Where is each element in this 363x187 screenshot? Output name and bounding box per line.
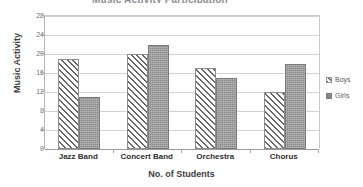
chart-legend: BoysGirls [326, 74, 363, 106]
bar-group [127, 16, 169, 149]
category-label: Jazz Band [44, 152, 113, 161]
legend-item-boys[interactable]: Boys [326, 74, 363, 85]
legend-label: Girls [335, 92, 349, 100]
y-tick-mark [41, 53, 44, 54]
y-tick-label: 12 [0, 88, 44, 95]
bar-girls [285, 64, 306, 150]
x-tick-mark [318, 149, 319, 153]
y-tick-label: 28 [0, 12, 44, 19]
category-label: Orchestra [181, 152, 250, 161]
y-tick-label: 0 [0, 145, 44, 152]
bar-group [58, 16, 100, 149]
bar-boys [264, 92, 285, 149]
category-label: Concert Band [113, 152, 182, 161]
bar-girls [216, 78, 237, 149]
y-tick-label: 24 [0, 31, 44, 38]
y-tick-label: 4 [0, 126, 44, 133]
bar-boys [127, 54, 148, 149]
bar-chart: Music Activity Participation Music Activ… [0, 0, 363, 187]
y-tick-mark [41, 148, 44, 149]
y-tick-mark [41, 34, 44, 35]
chart-title: Music Activity Participation [0, 0, 320, 3]
x-axis-title: No. of Students [44, 169, 319, 179]
y-tick-label: 20 [0, 50, 44, 57]
gridline-0 [45, 149, 319, 150]
plot-area [44, 15, 320, 149]
legend-swatch-icon [326, 77, 332, 83]
y-tick-label: 16 [0, 69, 44, 76]
legend-item-girls[interactable]: Girls [326, 90, 363, 101]
y-axis-title: Music Activity [12, 8, 22, 118]
y-tick-label: 8 [0, 107, 44, 114]
bar-group [264, 16, 306, 149]
legend-label: Boys [335, 76, 351, 84]
y-tick-mark [41, 15, 44, 16]
legend-swatch-icon [326, 93, 332, 99]
category-label: Chorus [250, 152, 319, 161]
bar-group [195, 16, 237, 149]
bar-girls [148, 45, 169, 150]
y-tick-mark [41, 91, 44, 92]
y-tick-mark [41, 129, 44, 130]
y-tick-mark [41, 110, 44, 111]
bar-boys [195, 68, 216, 149]
y-tick-mark [41, 72, 44, 73]
bar-boys [58, 59, 79, 149]
bar-girls [79, 97, 100, 149]
